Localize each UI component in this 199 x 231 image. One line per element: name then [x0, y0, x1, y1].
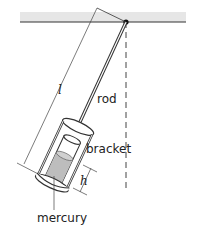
ceiling	[20, 12, 186, 22]
height-label: h	[80, 175, 88, 187]
pendulum-drawing	[0, 0, 199, 231]
rod-label: rod	[97, 93, 117, 105]
mercury-label: mercury	[37, 212, 87, 224]
length-label: l	[58, 84, 62, 96]
bracket-label: bracket	[86, 143, 131, 155]
